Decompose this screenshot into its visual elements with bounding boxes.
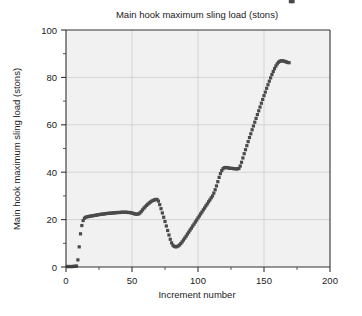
y-tick-label: 80 — [46, 72, 57, 83]
x-tick-label: 100 — [190, 275, 206, 286]
data-point — [252, 124, 255, 127]
data-point — [212, 191, 215, 194]
x-tick-label: 150 — [256, 275, 272, 286]
data-point — [256, 113, 259, 116]
data-point — [167, 233, 170, 236]
data-point — [240, 161, 243, 164]
x-tick-label: 50 — [127, 275, 138, 286]
data-point — [249, 132, 252, 135]
data-point — [243, 152, 246, 155]
data-point — [287, 61, 290, 64]
x-axis-tick-labels: 050100150200 — [63, 275, 338, 286]
data-point — [266, 83, 269, 86]
data-point — [260, 102, 263, 105]
x-tick-label: 0 — [63, 275, 68, 286]
data-point — [251, 128, 254, 131]
data-point — [79, 232, 82, 235]
data-point — [253, 121, 256, 124]
data-point — [244, 148, 247, 151]
data-point — [214, 188, 217, 191]
data-point — [158, 203, 161, 206]
data-point — [268, 80, 271, 83]
data-point — [245, 144, 248, 147]
data-point — [161, 211, 164, 214]
x-tick-label: 200 — [322, 275, 338, 286]
data-point — [261, 98, 264, 101]
data-point — [258, 105, 261, 108]
data-point — [269, 76, 272, 79]
data-point — [169, 238, 172, 241]
data-point — [216, 180, 219, 183]
data-point — [257, 109, 260, 112]
chart-title: Main hook maximum sling load (stons) — [116, 9, 278, 20]
chart-figure: 050100150200 020406080100 Main hook maxi… — [0, 0, 362, 316]
data-point — [162, 216, 165, 219]
data-point — [262, 94, 265, 97]
y-tick-label: 100 — [41, 25, 57, 36]
data-point — [76, 258, 79, 261]
data-point — [159, 207, 162, 210]
data-point — [165, 224, 168, 227]
data-point — [163, 220, 166, 223]
data-point — [218, 176, 221, 179]
data-point — [270, 73, 273, 76]
chart-canvas: 050100150200 020406080100 Main hook maxi… — [0, 0, 362, 316]
y-tick-label: 60 — [46, 119, 57, 130]
data-point — [265, 87, 268, 90]
data-point — [247, 140, 250, 143]
data-point — [80, 224, 83, 227]
y-tick-label: 20 — [46, 214, 57, 225]
data-point — [272, 70, 275, 73]
data-point — [248, 136, 251, 139]
data-point — [215, 184, 218, 187]
data-point — [264, 90, 267, 93]
data-point — [239, 164, 242, 167]
data-point — [211, 194, 214, 197]
data-point — [291, 0, 294, 3]
y-tick-label: 0 — [52, 262, 57, 273]
y-tick-label: 40 — [46, 167, 57, 178]
data-point — [254, 117, 257, 120]
data-point — [78, 245, 81, 248]
data-point — [166, 229, 169, 232]
y-axis-tick-labels: 020406080100 — [41, 25, 57, 273]
x-axis-label: Increment number — [158, 289, 235, 300]
y-axis-label: Main hook maximum sling load (stons) — [11, 68, 22, 230]
data-point — [241, 156, 244, 159]
data-point — [219, 172, 222, 175]
data-point — [157, 200, 160, 203]
